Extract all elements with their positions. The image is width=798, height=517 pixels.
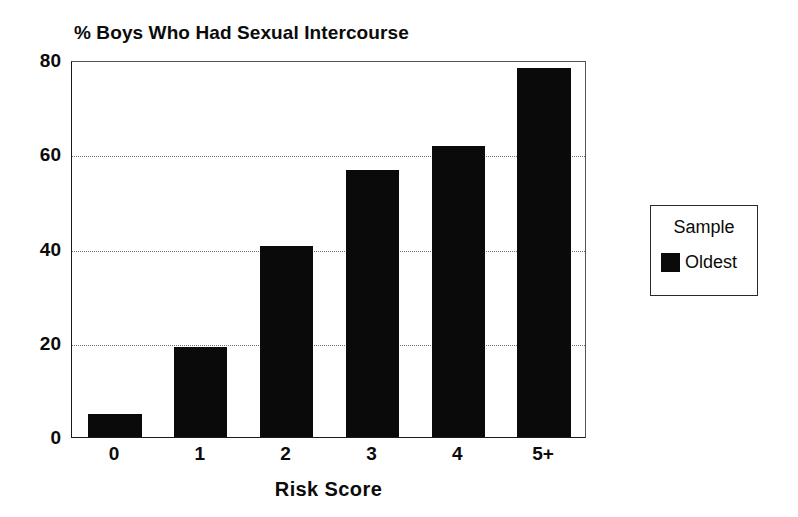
y-axis-tick-labels: 020406080 [0, 61, 61, 438]
x-axis-tick-labels: 012345+ [71, 444, 586, 470]
page-title: % Boys Who Had Sexual Intercourse [74, 22, 409, 44]
x-tick-5+: 5+ [500, 444, 586, 463]
y-tick-80: 80 [15, 51, 61, 70]
x-tick-4: 4 [414, 444, 500, 463]
legend-item-oldest: Oldest [661, 252, 737, 273]
x-tick-0: 0 [71, 444, 157, 463]
bar-4 [432, 146, 485, 437]
x-tick-2: 2 [243, 444, 329, 463]
legend-item-label: Oldest [685, 252, 737, 273]
y-tick-60: 60 [15, 145, 61, 164]
bar-3 [346, 170, 399, 437]
bar-2 [260, 246, 313, 437]
plot-area [71, 61, 586, 438]
x-tick-1: 1 [157, 444, 243, 463]
bar-1 [174, 347, 227, 437]
y-tick-20: 20 [15, 334, 61, 353]
bar-0 [88, 414, 141, 437]
y-tick-0: 0 [15, 428, 61, 447]
bar-5+ [517, 68, 570, 437]
legend-title: Sample [651, 217, 757, 238]
x-tick-3: 3 [329, 444, 415, 463]
x-axis-title: Risk Score [71, 478, 586, 501]
y-tick-40: 40 [15, 240, 61, 259]
chart-figure: % Boys Who Had Sexual Intercourse 020406… [0, 0, 798, 517]
bar-series-oldest [72, 62, 585, 437]
legend-swatch-icon [661, 253, 680, 272]
legend-box: Sample Oldest [650, 205, 758, 296]
